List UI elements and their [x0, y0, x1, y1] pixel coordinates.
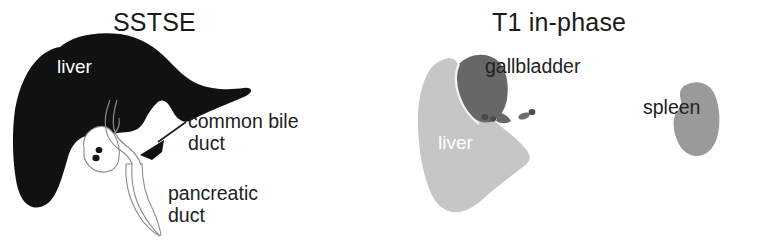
- gallstone-neck-1: [482, 114, 489, 120]
- common-bile-duct-arrowhead: [140, 140, 164, 160]
- gallstone-neck-2: [490, 116, 496, 121]
- organ-label-liver-sstse: liver: [57, 56, 92, 78]
- pancreatic-duct-shape-2: [142, 163, 161, 236]
- annotation-pancreatic-duct: pancreaticduct: [168, 182, 258, 226]
- panel-t1-in-phase: T1 in-phase gallbladder liver spleen: [379, 0, 758, 245]
- gallstone-1: [96, 147, 103, 153]
- t1-anatomy-svg: [379, 0, 758, 245]
- gallstone-2: [92, 155, 99, 162]
- annotation-common-bile-duct-line1: common bile: [188, 110, 299, 132]
- gallstone-free-2: [529, 109, 536, 115]
- common-bile-duct-arrow-line: [158, 122, 186, 142]
- panel-sstse: SSTSE liver common bileduct pancreaticdu…: [0, 0, 379, 245]
- annotation-common-bile-duct: common bileduct: [188, 110, 299, 154]
- spleen-shape-t1: [674, 82, 720, 156]
- annotation-common-bile-duct-line2: duct: [188, 132, 225, 154]
- annotation-pancreatic-duct-line2: duct: [168, 204, 205, 226]
- organ-label-liver-t1: liver: [438, 132, 473, 154]
- annotation-pancreatic-duct-line1: pancreatic: [168, 182, 258, 204]
- figure-container: SSTSE liver common bileduct pancreaticdu…: [0, 0, 758, 245]
- annotation-spleen: spleen: [643, 96, 700, 118]
- annotation-gallbladder: gallbladder: [485, 55, 580, 77]
